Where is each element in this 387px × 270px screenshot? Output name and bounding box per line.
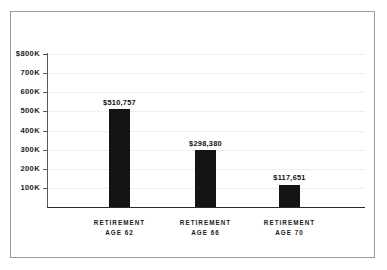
bar-value-label: $117,651: [273, 174, 305, 181]
y-tick-label: 400K: [20, 127, 40, 135]
bar[interactable]: [195, 150, 216, 207]
chart-figure: 100K200K300K400K500K600K700K$800K $510,7…: [0, 0, 387, 270]
chart-plot-area: [48, 54, 365, 207]
bar-value-label: $298,380: [189, 140, 222, 147]
bar[interactable]: [109, 109, 130, 207]
y-tick-label: 500K: [20, 108, 40, 116]
x-category-label-line1: RETIREMENT: [264, 219, 315, 226]
x-category-label-line2: AGE 66: [180, 228, 231, 238]
y-tick-label: $800K: [16, 50, 40, 58]
x-axis-line: [47, 207, 365, 208]
x-category-label-line2: AGE 62: [94, 228, 145, 238]
y-tick-label: 300K: [20, 146, 40, 154]
x-category-label-line1: RETIREMENT: [94, 219, 145, 226]
x-category-label: RETIREMENTAGE 66: [180, 218, 231, 238]
x-category-label-line2: AGE 70: [264, 228, 315, 238]
x-category-label: RETIREMENTAGE 70: [264, 218, 315, 238]
y-tick-label: 200K: [20, 165, 40, 173]
x-category-label-line1: RETIREMENT: [180, 219, 231, 226]
bar[interactable]: [279, 185, 300, 208]
x-category-label: RETIREMENTAGE 62: [94, 218, 145, 238]
y-tick-label: 700K: [20, 69, 40, 77]
y-tick-label: 600K: [20, 88, 40, 96]
bar-value-label: $510,757: [103, 99, 136, 106]
y-tick-label: 100K: [20, 184, 40, 192]
